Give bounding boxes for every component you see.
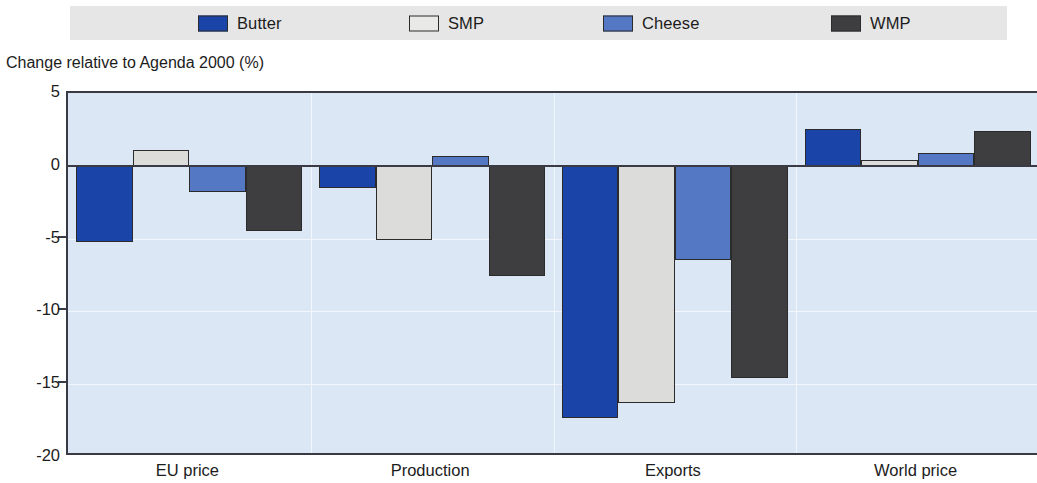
bar-eu-price-wmp: [246, 166, 303, 232]
bar-world-price-wmp: [974, 131, 1031, 166]
legend-item-wmp: WMP: [831, 14, 911, 33]
x-axis-category-label: Production: [391, 461, 470, 480]
group-separator: [554, 93, 555, 453]
bar-exports-butter: [562, 166, 619, 418]
bar-world-price-butter: [805, 129, 862, 165]
chart-legend: ButterSMPCheeseWMP: [70, 6, 1007, 40]
group-separator: [311, 93, 312, 453]
bar-production-wmp: [489, 166, 546, 277]
y-axis-tick-label: -5: [6, 227, 60, 246]
bar-eu-price-butter: [76, 166, 133, 242]
y-axis-tick-label: -20: [6, 446, 60, 465]
bar-eu-price-smp: [133, 150, 190, 166]
bar-exports-wmp: [731, 166, 788, 379]
legend-swatch-icon: [603, 15, 633, 31]
legend-item-smp: SMP: [409, 14, 484, 33]
legend-item-label: Butter: [237, 14, 282, 33]
legend-item-cheese: Cheese: [603, 14, 699, 33]
gridline: [68, 311, 1037, 312]
x-axis-category-label: World price: [874, 461, 957, 480]
group-separator: [796, 93, 797, 453]
legend-item-label: SMP: [448, 14, 484, 33]
x-axis-category-label: Exports: [645, 461, 701, 480]
legend-item-butter: Butter: [198, 14, 282, 33]
y-axis: 50-5-10-15-20: [0, 0, 60, 483]
plot-inner: [68, 93, 1037, 453]
legend-item-label: WMP: [870, 14, 911, 33]
zero-axis-line: [68, 165, 1037, 167]
legend-item-label: Cheese: [642, 14, 699, 33]
bar-exports-smp: [618, 166, 675, 403]
gridline: [68, 239, 1037, 240]
x-axis-category-label: EU price: [156, 461, 219, 480]
bar-eu-price-cheese: [189, 166, 246, 192]
bar-production-butter: [319, 166, 376, 188]
gridline: [68, 384, 1037, 385]
legend-swatch-icon: [831, 15, 861, 31]
bar-exports-cheese: [675, 166, 732, 261]
y-axis-tick-label: -10: [6, 300, 60, 319]
y-axis-tick-label: 0: [6, 154, 60, 173]
plot-area: [66, 91, 1037, 455]
y-axis-tick-label: -15: [6, 373, 60, 392]
y-axis-tick-label: 5: [6, 82, 60, 101]
legend-swatch-icon: [409, 15, 439, 31]
bar-production-smp: [376, 166, 433, 240]
legend-swatch-icon: [198, 15, 228, 31]
